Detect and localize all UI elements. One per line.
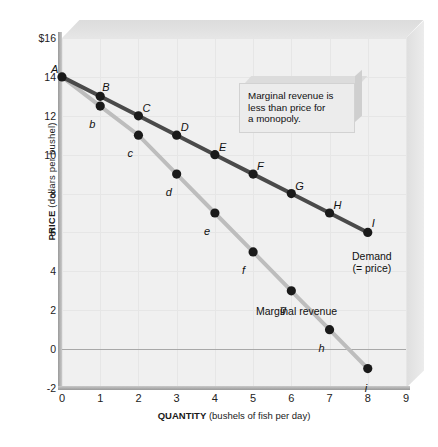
data-point	[134, 131, 143, 140]
point-label-E: E	[219, 142, 226, 153]
callout-3d-top	[245, 76, 367, 83]
x-tick-label: 9	[394, 392, 418, 404]
point-label-C: C	[142, 103, 150, 114]
data-point	[96, 101, 105, 110]
monopoly-demand-marginal-revenue-chart: $1614121086420-2 0123456789 PRICE (dolla…	[0, 0, 438, 447]
point-label-e: e	[204, 226, 210, 237]
point-label-f: f	[242, 265, 245, 276]
point-label-b: b	[89, 119, 95, 130]
point-label-F: F	[257, 161, 264, 172]
demand-series-label: Demand (= price)	[352, 250, 392, 274]
y-axis-label: PRICE (dollars per bushel)	[46, 122, 57, 240]
point-label-I: I	[372, 218, 375, 229]
point-label-i: i	[365, 383, 367, 394]
y-tick-label: 0	[22, 344, 56, 354]
x-tick-label: 0	[50, 392, 74, 404]
x-tick-label: 7	[318, 392, 342, 404]
x-tick-label: 4	[203, 392, 227, 404]
point-label-A: A	[51, 64, 58, 75]
demand-label-line1: Demand	[352, 250, 392, 262]
y-tick-label: 12	[22, 111, 56, 121]
point-label-G: G	[295, 181, 304, 192]
plot-3d-top-face	[62, 20, 423, 38]
x-axis-label-unit: (bushels of fish per day)	[209, 410, 310, 421]
data-point	[363, 364, 372, 373]
callout-3d-side	[355, 70, 362, 122]
monopoly-callout: Marginal revenue is less than price for …	[239, 83, 355, 133]
x-tick-label: 1	[88, 392, 112, 404]
point-label-h: h	[319, 343, 325, 354]
x-axis-label-bold: QUANTITY	[158, 410, 207, 421]
gridline-vertical	[406, 38, 407, 388]
x-tick-label: 6	[279, 392, 303, 404]
callout-line-1: Marginal revenue is	[248, 90, 347, 102]
y-axis-label-unit: (dollars per bushel)	[46, 122, 57, 207]
x-tick-label: 3	[165, 392, 189, 404]
x-tick-label: 5	[241, 392, 265, 404]
point-label-D: D	[181, 122, 189, 133]
y-tick-label: $16	[22, 33, 56, 43]
demand-label-line2: (= price)	[352, 262, 392, 274]
callout-body: Marginal revenue is less than price for …	[239, 83, 355, 133]
data-point	[249, 247, 258, 256]
y-tick-label: 2	[22, 305, 56, 315]
data-point	[325, 325, 334, 334]
x-tick-label: 2	[126, 392, 150, 404]
point-label-d: d	[166, 187, 172, 198]
data-point	[57, 72, 66, 81]
point-label-c: c	[127, 148, 133, 159]
callout-line-2: less than price for	[248, 102, 347, 114]
point-label-H: H	[334, 200, 342, 211]
x-tick-label: 8	[356, 392, 380, 404]
y-tick-label: 4	[22, 266, 56, 276]
callout-line-3: a monopoly.	[248, 113, 347, 125]
point-label-B: B	[102, 82, 109, 93]
data-point	[172, 170, 181, 179]
x-axis-label: QUANTITY (bushels of fish per day)	[62, 410, 406, 421]
marginal-revenue-series-label: Marginal revenue	[256, 305, 337, 317]
data-point	[210, 208, 219, 217]
plot-3d-right-face	[406, 21, 424, 388]
data-point	[287, 286, 296, 295]
y-axis-label-bold: PRICE	[46, 211, 57, 241]
